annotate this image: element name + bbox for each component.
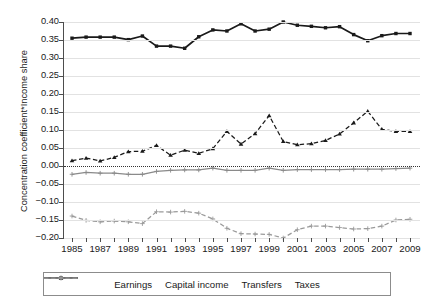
- x-axis-tick: [241, 238, 242, 242]
- x-axis-tick: [185, 238, 186, 242]
- y-axis-tick-label: 0.35: [19, 34, 59, 44]
- y-axis-tick: [59, 58, 63, 59]
- x-axis-tick: [199, 238, 200, 242]
- gridline: [64, 112, 420, 113]
- legend-swatch-dashed-gray-plus-marker: [44, 273, 78, 283]
- x-axis-tick: [283, 238, 284, 242]
- y-axis-tick-label: 0.10: [19, 124, 59, 134]
- x-axis-tick: [114, 238, 115, 242]
- y-axis-tick: [59, 166, 63, 167]
- y-axis-tick-label: 0.40: [19, 16, 59, 26]
- y-axis-tick: [59, 76, 63, 77]
- y-axis-tick: [59, 40, 63, 41]
- x-axis-tick: [72, 238, 73, 242]
- x-axis-tick-label: 2009: [390, 243, 429, 254]
- gridline: [64, 22, 420, 23]
- x-axis-tick: [269, 238, 270, 242]
- chart-legend: EarningsCapital incomeTransfersTaxes: [43, 272, 391, 296]
- y-axis-tick: [59, 94, 63, 95]
- y-axis-tick-label: 0.30: [19, 52, 59, 62]
- y-axis-tick-label: 0.00: [19, 160, 59, 170]
- legend-item-capital-income[interactable]: Capital income: [165, 279, 228, 290]
- gridline: [64, 238, 420, 239]
- gridline: [64, 94, 420, 95]
- y-axis-tick-label: 0.15: [19, 106, 59, 116]
- x-axis-tick: [368, 238, 369, 242]
- legend-label: Transfers: [242, 279, 282, 290]
- gridline: [64, 58, 420, 59]
- x-axis-tick: [142, 238, 143, 242]
- x-axis-tick: [100, 238, 101, 242]
- y-axis-tick: [59, 202, 63, 203]
- chart-figure: Concentration coefficient*Income share 0…: [0, 0, 429, 303]
- x-axis-tick: [255, 238, 256, 242]
- y-axis-tick: [59, 220, 63, 221]
- legend-label: Earnings: [114, 279, 152, 290]
- series-transfers: [70, 166, 413, 177]
- x-axis-tick: [157, 238, 158, 242]
- x-axis-tick: [340, 238, 341, 242]
- legend-label: Taxes: [295, 279, 320, 290]
- gridline: [64, 220, 420, 221]
- y-axis-tick: [59, 148, 63, 149]
- y-axis-tick: [59, 112, 63, 113]
- y-axis-tick-label: −0.20: [19, 232, 59, 242]
- y-axis-tick-label: −0.10: [19, 196, 59, 206]
- x-axis-tick: [171, 238, 172, 242]
- gridline: [64, 184, 420, 185]
- y-axis-tick-label: −0.15: [19, 214, 59, 224]
- y-axis-tick: [59, 130, 63, 131]
- series-earnings: [70, 20, 411, 50]
- y-axis-tick-label: 0.25: [19, 70, 59, 80]
- x-axis-tick: [382, 238, 383, 242]
- y-axis-tick: [59, 238, 63, 239]
- series-taxes: [70, 209, 413, 240]
- legend-item-earnings[interactable]: Earnings: [114, 279, 152, 290]
- series-capital-income: [70, 109, 413, 162]
- y-axis-tick-label: −0.05: [19, 178, 59, 188]
- gridline: [64, 202, 420, 203]
- x-axis-tick: [354, 238, 355, 242]
- x-axis-tick: [326, 238, 327, 242]
- plot-area: [63, 22, 419, 238]
- x-axis-tick: [410, 238, 411, 242]
- gridline: [64, 130, 420, 131]
- x-axis-tick: [311, 238, 312, 242]
- legend-item-transfers[interactable]: Transfers: [242, 279, 282, 290]
- y-axis-tick-label: 0.05: [19, 142, 59, 152]
- gridline: [64, 148, 420, 149]
- x-axis-tick: [213, 238, 214, 242]
- gridline: [64, 76, 420, 77]
- x-axis-tick: [396, 238, 397, 242]
- x-axis-tick: [297, 238, 298, 242]
- x-axis-tick: [128, 238, 129, 242]
- y-axis-tick-label: 0.20: [19, 88, 59, 98]
- x-axis-tick: [86, 238, 87, 242]
- legend-item-taxes[interactable]: Taxes: [295, 279, 320, 290]
- y-axis-tick-labels: 0.400.350.300.250.200.150.100.050.00−0.0…: [18, 22, 59, 238]
- y-axis-tick: [59, 184, 63, 185]
- y-axis-tick: [59, 22, 63, 23]
- gridline: [64, 40, 420, 41]
- zero-reference-line: [64, 166, 420, 167]
- x-axis-tick: [227, 238, 228, 242]
- legend-label: Capital income: [165, 279, 228, 290]
